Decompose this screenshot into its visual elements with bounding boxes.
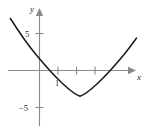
y-axis-arrow [36, 8, 43, 16]
x-tick-label-1: 1 [55, 78, 59, 88]
x-axis-label: x [136, 72, 141, 82]
y-tick-label-5: 5 [25, 29, 29, 39]
y-tick-label-minus-5: −5 [19, 103, 28, 113]
parabola-curve [10, 19, 136, 97]
parabola-plot: y x 1 5 −5 [0, 0, 147, 133]
x-axis-arrow [128, 67, 136, 74]
parabola-figure: y x 1 5 −5 [0, 0, 147, 133]
y-axis-label: y [29, 4, 34, 14]
